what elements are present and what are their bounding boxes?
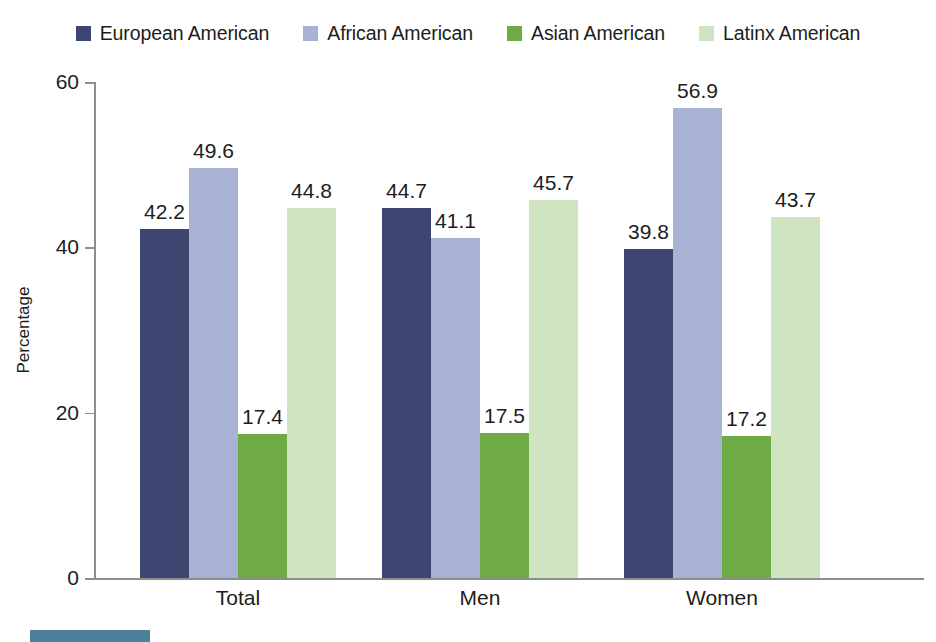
bar-slot: 43.7 <box>771 82 820 578</box>
bar-value-label: 17.4 <box>242 406 283 427</box>
bar-value-label: 17.2 <box>726 408 767 429</box>
y-axis-tick-label: 0 <box>67 566 79 590</box>
bar[interactable] <box>722 436 771 578</box>
bar-value-label: 39.8 <box>628 221 669 242</box>
bar[interactable] <box>238 434 287 578</box>
bar-value-label: 17.5 <box>484 405 525 426</box>
bar[interactable] <box>480 433 529 578</box>
x-axis-group-label: Women <box>686 586 758 610</box>
bar-value-label: 42.2 <box>144 201 185 222</box>
bar-slot: 39.8 <box>624 82 673 578</box>
bar-value-label: 56.9 <box>677 80 718 101</box>
bar-slot: 49.6 <box>189 82 238 578</box>
legend-item-label: Latinx American <box>723 22 860 45</box>
bar[interactable] <box>140 229 189 578</box>
bar-slot: 45.7 <box>529 82 578 578</box>
bar-group-bars: 39.856.917.243.7 <box>624 82 820 578</box>
y-axis-title: Percentage <box>14 287 34 374</box>
legend-item-label: African American <box>327 22 473 45</box>
bar-value-label: 49.6 <box>193 140 234 161</box>
bar-slot: 42.2 <box>140 82 189 578</box>
bar[interactable] <box>189 168 238 578</box>
y-axis-tick-mark <box>85 578 94 580</box>
legend-item[interactable]: Latinx American <box>699 22 860 45</box>
legend-item[interactable]: African American <box>303 22 473 45</box>
y-axis-tick-mark <box>85 247 94 249</box>
chart-plot-area: Percentage 0204060 42.249.617.444.8Total… <box>94 82 924 578</box>
bar-slot: 44.7 <box>382 82 431 578</box>
square-swatch-icon <box>76 26 91 41</box>
bar-group-bars: 42.249.617.444.8 <box>140 82 336 578</box>
bar-value-label: 44.7 <box>386 180 427 201</box>
legend-item-label: European American <box>100 22 270 45</box>
bar-slot: 17.4 <box>238 82 287 578</box>
bar-slot: 44.8 <box>287 82 336 578</box>
bar-value-label: 44.8 <box>291 180 332 201</box>
x-axis-group-label: Total <box>216 586 260 610</box>
square-swatch-icon <box>303 26 318 41</box>
y-axis-line <box>94 82 96 578</box>
legend-item[interactable]: Asian American <box>507 22 665 45</box>
bottom-accent-bar <box>30 630 150 642</box>
bar-value-label: 41.1 <box>435 210 476 231</box>
bar-slot: 17.5 <box>480 82 529 578</box>
bar-slot: 17.2 <box>722 82 771 578</box>
bar-value-label: 45.7 <box>533 172 574 193</box>
chart-legend: European AmericanAfrican AmericanAsian A… <box>0 22 936 45</box>
bar-group: 39.856.917.243.7Women <box>624 82 820 578</box>
square-swatch-icon <box>699 26 714 41</box>
y-axis-tick-mark <box>85 82 94 84</box>
bar[interactable] <box>287 208 336 578</box>
legend-item-label: Asian American <box>531 22 665 45</box>
bar-group: 42.249.617.444.8Total <box>140 82 336 578</box>
bar[interactable] <box>673 108 722 578</box>
square-swatch-icon <box>507 26 522 41</box>
bar[interactable] <box>529 200 578 578</box>
bar-group-bars: 44.741.117.545.7 <box>382 82 578 578</box>
x-axis-line <box>94 578 924 580</box>
bar[interactable] <box>771 217 820 578</box>
bar-group: 44.741.117.545.7Men <box>382 82 578 578</box>
y-axis-tick-label: 40 <box>56 235 79 259</box>
bar[interactable] <box>382 208 431 578</box>
bar-slot: 41.1 <box>431 82 480 578</box>
x-axis-group-label: Men <box>460 586 501 610</box>
y-axis-tick-label: 20 <box>56 401 79 425</box>
bar[interactable] <box>431 238 480 578</box>
bar[interactable] <box>624 249 673 578</box>
y-axis-tick-label: 60 <box>56 70 79 94</box>
y-axis-tick-mark <box>85 413 94 415</box>
bar-value-label: 43.7 <box>775 189 816 210</box>
legend-item[interactable]: European American <box>76 22 270 45</box>
bar-slot: 56.9 <box>673 82 722 578</box>
